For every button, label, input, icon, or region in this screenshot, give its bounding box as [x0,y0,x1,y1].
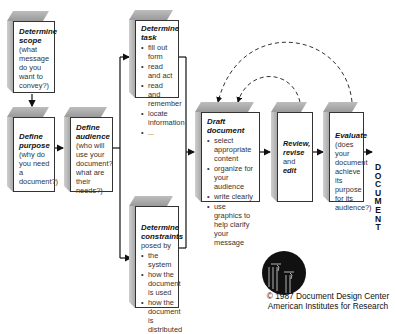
list-item: write clearly [207,192,255,201]
box-title: Define audience [76,123,108,141]
document-design-center-logo [262,251,306,295]
list-item: how the document is used [141,270,174,297]
list-item: organize for your audience [207,164,255,191]
box-define-audience: Define audience (who will use your docum… [64,107,113,192]
box-review-revise-edit: Review, revise and edit [271,102,313,202]
box-body: (does your document achieve its purpose … [335,140,359,212]
box-title: Determine task [141,24,174,42]
letter: T [373,223,383,232]
credit-line-2: American Institutes for Research [258,301,396,311]
box-evaluate: Evaluate (does your document achieve its… [323,102,364,202]
copyright-credit: © 1987 Document Design Center American I… [258,291,396,311]
list-item: read and act [141,62,174,80]
box-title: Define purpose [19,132,50,150]
box-title: Review, [283,139,308,148]
task-list: fill out form read and act read and reme… [141,43,174,137]
list-item: use graphics to help clarify your messag… [207,202,255,247]
credit-line-1: © 1987 Document Design Center [258,291,396,301]
box-subtitle: posed by [141,241,174,250]
box-title: revise [283,148,308,157]
box-determine-task: Determine task fill out form read and ac… [129,10,179,98]
list-item: fill out form [141,43,174,61]
list-item: the system [141,251,174,269]
box-title: Evaluate [335,131,359,140]
document-output-label: D O C U M E N T [373,163,383,232]
box-title: Determine constraints [141,223,174,241]
box-title: Determine scope [19,27,50,45]
box-draft-document: Draft document select appropriate conten… [195,102,260,202]
box-determine-scope: Determine scope (what message do you wan… [7,11,55,93]
list-item: select appropriate content [207,136,255,163]
list-item: ... [141,128,174,137]
logo-mark-icon [262,251,306,295]
box-define-purpose: Define purpose (why do you need a docume… [7,107,55,192]
box-body: (why do you need a document?) [19,150,50,186]
draft-list: select appropriate content organize for … [207,136,255,247]
list-item: how the document is distributed [141,298,174,334]
constraints-list: the system how the document is used how … [141,251,174,334]
box-body: (who will use your document? what are th… [76,141,108,195]
list-item: locate information [141,109,174,127]
box-body: and [283,157,308,166]
box-title: edit [283,166,308,175]
box-title: Draft document [207,117,255,135]
box-body: (what message do you want to convey?) [19,45,50,90]
box-determine-constraints: Determine constraints posed by the syste… [129,196,179,308]
list-item: read and remember [141,81,174,108]
